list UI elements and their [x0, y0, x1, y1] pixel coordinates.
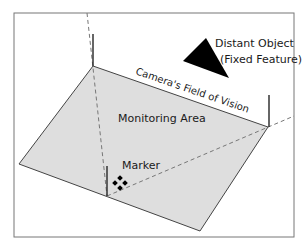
fixed-feature-label: (Fixed Feature)	[220, 53, 302, 66]
monitoring-plane	[19, 66, 268, 231]
monitoring-area-label: Monitoring Area	[118, 112, 206, 125]
monitoring-diagram: Distant Object (Fixed Feature) Camera's …	[0, 0, 303, 248]
distant-object-label: Distant Object	[215, 37, 295, 50]
marker-label: Marker	[122, 159, 160, 172]
